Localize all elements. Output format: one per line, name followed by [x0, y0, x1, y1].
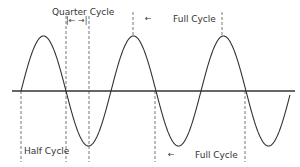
full-cycle-bottom-label: Full Cycle	[195, 150, 238, 160]
half-cycle-label: Half Cycle	[24, 146, 69, 156]
full-cycle-top-arrow-icon: ←	[145, 14, 152, 24]
dashed-markers	[21, 12, 245, 162]
quarter-cycle-arrows: |← →|	[66, 16, 87, 26]
full-cycle-bottom-arrow-icon: ←	[168, 150, 175, 160]
full-cycle-top-label: Full Cycle	[173, 14, 216, 24]
diagram-canvas	[0, 0, 300, 167]
sine-cycle-diagram: Quarter Cycle |← →| ← Full Cycle Half Cy…	[0, 0, 300, 167]
